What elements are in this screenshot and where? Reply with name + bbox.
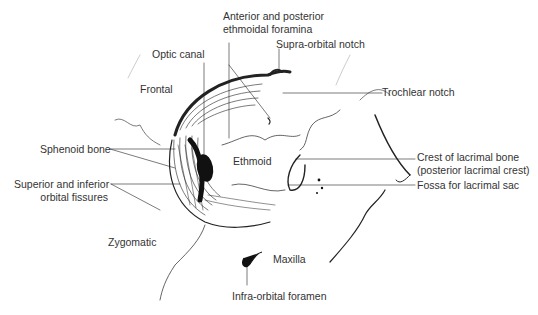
label-zygomatic: Zygomatic <box>108 236 156 249</box>
label-supra-orbital-notch: Supra-orbital notch <box>276 38 365 51</box>
label-orbital-fissures: Superior and inferior orbital fissures <box>14 178 108 204</box>
label-ethmoid: Ethmoid <box>233 155 272 168</box>
label-infra-orbital-foramen: Infra-orbital foramen <box>232 290 327 303</box>
label-trochlear-notch: Trochlear notch <box>382 86 455 99</box>
label-anterior-posterior-ethmoidal-foramina: Anterior and posterior ethmoidal foramin… <box>223 10 324 36</box>
label-fossa-for-lacrimal-sac: Fossa for lacrimal sac <box>417 179 519 192</box>
orbit-diagram: Anterior and posterior ethmoidal foramin… <box>0 0 538 315</box>
label-optic-canal: Optic canal <box>152 48 205 61</box>
label-frontal: Frontal <box>140 83 173 96</box>
label-maxilla: Maxilla <box>273 253 306 266</box>
label-sphenoid-bone: Sphenoid bone <box>40 143 111 156</box>
label-crest-of-lacrimal-bone: Crest of lacrimal bone (posterior lacrim… <box>417 151 530 177</box>
